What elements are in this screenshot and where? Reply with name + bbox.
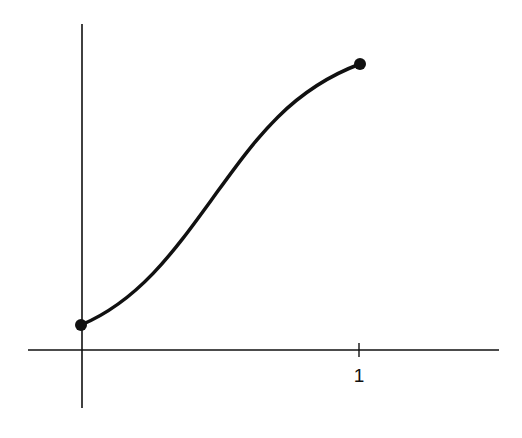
curve-line <box>81 64 360 325</box>
chart: 1 <box>0 0 522 438</box>
start-point-dot <box>75 319 87 331</box>
end-point-dot <box>354 58 366 70</box>
x-tick-label-1: 1 <box>354 365 365 386</box>
